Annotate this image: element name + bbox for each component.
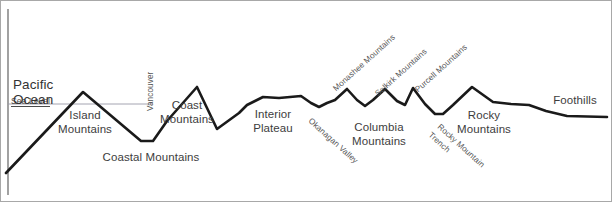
pacific-ocean-label-line2: Ocean — [13, 93, 53, 108]
rocky-mountains-label-line1: Rocky — [468, 109, 500, 121]
coastal-mountains-label: Coastal Mountains — [103, 151, 200, 163]
profile-svg — [1, 1, 612, 202]
coast-mountains-label-line1: Coast — [172, 99, 203, 111]
cross-section-figure: Sea Level Pacific Ocean Island Mountains… — [0, 0, 612, 202]
foothills-label: Foothills — [553, 94, 597, 106]
island-mountains-label-line2: Mountains — [58, 123, 112, 135]
columbia-mountains-label-line1: Columbia — [354, 121, 403, 133]
coast-mountains-label-line2: Mountains — [160, 113, 214, 125]
rocky-mountains-label-line2: Mountains — [457, 123, 511, 135]
interior-plateau-label-line2: Plateau — [253, 122, 293, 134]
columbia-mountains-label-line2: Mountains — [352, 135, 406, 147]
interior-plateau-label-line1: Interior — [255, 108, 292, 120]
island-mountains-label-line1: Island — [69, 109, 100, 121]
vancouver-label: Vancouver — [147, 72, 156, 111]
pacific-ocean-label-line1: Pacific — [13, 78, 53, 93]
